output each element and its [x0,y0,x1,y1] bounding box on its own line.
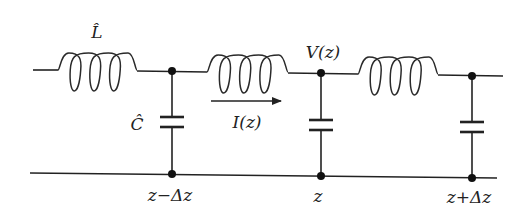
inductor-2 [207,55,288,93]
position-label-right: z+Δz [446,187,492,207]
top-node-3 [468,72,476,80]
inductor-label: L̂ [90,22,102,42]
current-label: I(z) [232,112,262,132]
position-label-center: z [313,186,324,206]
shunt-capacitor-2 [309,73,333,176]
voltage-label: V(z) [306,42,341,62]
bottom-node-1 [168,170,176,178]
inductor-coil [58,53,137,91]
inductor-3 [358,57,438,95]
shunt-capacitor-1 [160,71,184,174]
bottom-node-3 [468,174,476,182]
top-node-2 [317,69,325,77]
top-node-1 [168,67,176,75]
inductor-1 [58,53,137,91]
inductor-coil [358,57,438,95]
shunt-capacitor-3 [460,76,484,178]
bottom-node-2 [317,172,325,180]
capacitor-label: Ĉ [130,114,143,134]
transmission-line-diagram: L̂ Ĉ I(z) V(z) z−Δz z z+Δz [0,0,530,218]
bottom-wire [30,173,497,178]
position-label-left: z−Δz [147,185,193,205]
inductor-coil [207,55,288,93]
